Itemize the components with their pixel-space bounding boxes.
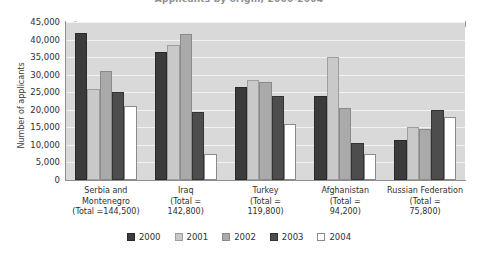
bar-turkey-2003 bbox=[272, 96, 284, 180]
plot-right-tick bbox=[465, 21, 466, 27]
bar-iraq-2004 bbox=[204, 154, 216, 180]
legend-label: 2000 bbox=[139, 232, 161, 242]
gridline bbox=[66, 40, 465, 41]
y-axis-tick-labels: 05,00010,00015,00020,00025,00030,00035,0… bbox=[12, 22, 60, 180]
chart-legend: 20002001200220032004 bbox=[0, 232, 478, 242]
legend-swatch-icon bbox=[222, 233, 230, 241]
y-axis-tick-label: 45,000 bbox=[12, 18, 60, 27]
bar-afghanistan-2001 bbox=[327, 57, 339, 180]
x-axis-category-label: Serbia andMontenegro(Total =144,500) bbox=[66, 186, 146, 218]
y-axis-tick-label: 25,000 bbox=[12, 88, 60, 97]
bar-russian-federation-2001 bbox=[407, 127, 419, 180]
x-axis-category-label: Iraq(Total =142,800) bbox=[146, 186, 226, 218]
legend-item-2001[interactable]: 2001 bbox=[175, 232, 209, 242]
y-axis-tick-label: 5,000 bbox=[12, 158, 60, 167]
bar-turkey-2004 bbox=[284, 124, 296, 180]
legend-label: 2004 bbox=[329, 232, 351, 242]
bar-russian-federation-2000 bbox=[394, 140, 406, 180]
bar-iraq-2000 bbox=[155, 52, 167, 180]
y-axis-tick-label: 40,000 bbox=[12, 35, 60, 44]
bar-iraq-2002 bbox=[180, 34, 192, 180]
gridline bbox=[66, 57, 465, 58]
bar-serbia-and-montenegro-2001 bbox=[87, 89, 99, 180]
grouped-bar-chart: Applicants by origin, 2000-2004 Number o… bbox=[0, 0, 478, 258]
legend-swatch-icon bbox=[127, 233, 135, 241]
y-axis-tick-label: 0 bbox=[12, 176, 60, 185]
bar-iraq-2003 bbox=[192, 112, 204, 180]
bar-serbia-and-montenegro-2002 bbox=[100, 71, 112, 180]
bar-afghanistan-2000 bbox=[314, 96, 326, 180]
legend-item-2003[interactable]: 2003 bbox=[270, 232, 304, 242]
bar-serbia-and-montenegro-2000 bbox=[75, 33, 87, 180]
bar-turkey-2002 bbox=[259, 82, 271, 180]
x-axis-category-label: Afghanistan(Total =94,200) bbox=[305, 186, 385, 218]
legend-item-2000[interactable]: 2000 bbox=[127, 232, 161, 242]
legend-label: 2002 bbox=[234, 232, 256, 242]
y-axis-tick-label: 15,000 bbox=[12, 123, 60, 132]
bar-afghanistan-2004 bbox=[364, 154, 376, 180]
legend-label: 2001 bbox=[187, 232, 209, 242]
legend-swatch-icon bbox=[317, 233, 325, 241]
bar-russian-federation-2003 bbox=[431, 110, 443, 180]
chart-title: Applicants by origin, 2000-2004 bbox=[0, 0, 478, 6]
y-axis-tick-label: 20,000 bbox=[12, 106, 60, 115]
gridline bbox=[66, 22, 465, 23]
x-axis-category-label: Russian Federation(Total =75,800) bbox=[385, 186, 465, 218]
legend-swatch-icon bbox=[175, 233, 183, 241]
y-axis-tick-label: 30,000 bbox=[12, 70, 60, 79]
legend-swatch-icon bbox=[270, 233, 278, 241]
bar-turkey-2000 bbox=[235, 87, 247, 180]
bar-russian-federation-2004 bbox=[444, 117, 456, 180]
bar-turkey-2001 bbox=[247, 80, 259, 180]
y-axis-tick-label: 10,000 bbox=[12, 141, 60, 150]
bar-iraq-2001 bbox=[167, 45, 179, 180]
legend-item-2002[interactable]: 2002 bbox=[222, 232, 256, 242]
legend-label: 2003 bbox=[282, 232, 304, 242]
bar-russian-federation-2002 bbox=[419, 129, 431, 180]
bar-afghanistan-2003 bbox=[351, 143, 363, 180]
bar-serbia-and-montenegro-2004 bbox=[124, 106, 136, 180]
plot-area bbox=[66, 22, 465, 180]
x-axis-category-label: Turkey(Total =119,800) bbox=[226, 186, 306, 218]
y-axis-tick-label: 35,000 bbox=[12, 53, 60, 62]
x-axis-category-labels: Serbia andMontenegro(Total =144,500)Iraq… bbox=[66, 186, 465, 226]
legend-item-2004[interactable]: 2004 bbox=[317, 232, 351, 242]
bar-serbia-and-montenegro-2003 bbox=[112, 92, 124, 180]
bar-afghanistan-2002 bbox=[339, 108, 351, 180]
x-axis-line bbox=[65, 180, 466, 181]
gridline bbox=[66, 75, 465, 76]
